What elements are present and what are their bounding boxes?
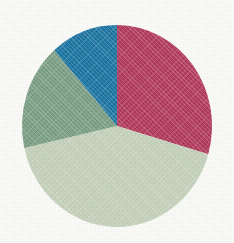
pie-slices-group [22,25,212,227]
pie-chart-svg [0,0,234,243]
pie-chart-figure [0,0,234,243]
